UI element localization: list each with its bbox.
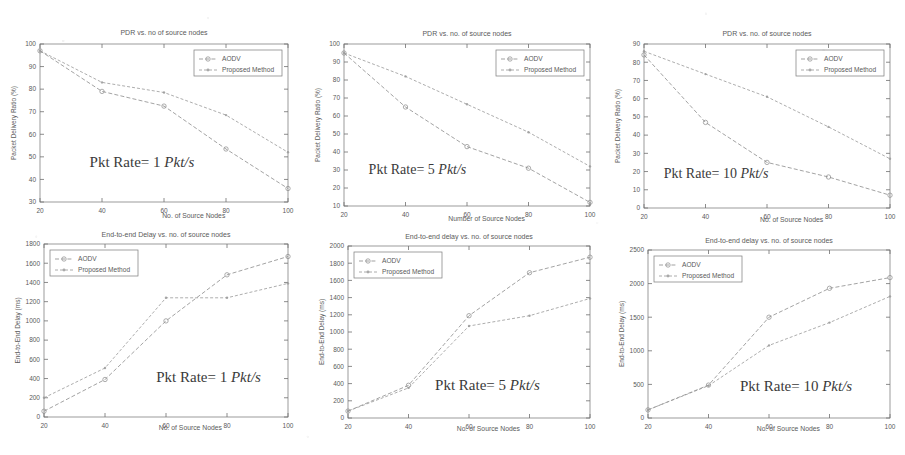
legend: AODVProposed Method [654, 256, 742, 282]
y-tick-label: 80 [29, 85, 37, 92]
legend: AODVProposed Method [50, 250, 138, 276]
data-point-proposed [163, 91, 165, 93]
data-point-proposed [43, 397, 45, 399]
y-tick-label: 600 [333, 363, 344, 370]
x-tick-label: 20 [40, 422, 48, 429]
legend-marker-proposed [367, 271, 370, 274]
y-axis-label: Packet Delivery Ratio (%) [614, 89, 622, 163]
y-tick-label: 40 [633, 131, 641, 138]
y-tick-label: 60 [333, 112, 341, 119]
y-tick-label: 90 [633, 40, 641, 47]
x-tick-label: 100 [885, 213, 896, 220]
x-tick-label: 40 [702, 213, 710, 220]
data-point-proposed [647, 409, 649, 411]
y-tick-label: 60 [29, 131, 37, 138]
chart-svg: 20406080100102030405060708090100PDR vs. … [302, 0, 604, 228]
data-point-proposed [707, 385, 709, 387]
legend-label: AODV [682, 261, 701, 268]
y-tick-label: 1000 [26, 317, 41, 324]
y-tick-label: 30 [333, 166, 341, 173]
legend-label: AODV [824, 55, 843, 62]
legend-label: Proposed Method [222, 66, 274, 74]
y-tick-label: 70 [29, 108, 37, 115]
data-point-proposed [404, 75, 406, 77]
data-point-aodv [703, 120, 707, 124]
legend: AODVProposed Method [496, 50, 584, 76]
y-tick-label: 20 [633, 168, 641, 175]
pkt-rate-annotation-unit: Pkt/s [821, 378, 852, 394]
x-tick-label: 40 [705, 423, 713, 430]
data-point-proposed [589, 165, 591, 167]
chart-title: End-to-end delay vs. no. of source nodes [705, 237, 833, 245]
y-tick-label: 10 [333, 202, 341, 209]
pkt-rate-annotation: Pkt Rate= 10 Pkt/s [664, 166, 769, 181]
x-axis-label: No. of Source Nodes [760, 216, 824, 223]
data-point-aodv [465, 144, 469, 148]
chart-delay-10pkts: 2040608010005001000150020002500End-to-en… [604, 228, 905, 455]
data-point-proposed [766, 96, 768, 98]
y-tick-label: 90 [333, 58, 341, 65]
pkt-rate-annotation: Pkt Rate= 1 Pkt/s [156, 369, 261, 385]
legend-label: AODV [382, 257, 401, 264]
data-point-proposed [643, 50, 645, 52]
y-tick-label: 50 [633, 113, 641, 120]
chart-svg: 2040608010002004006008001000120014001600… [302, 228, 604, 455]
data-point-proposed [287, 151, 289, 153]
x-tick-label: 20 [36, 207, 44, 214]
y-tick-label: 0 [340, 414, 344, 421]
data-point-proposed [704, 73, 706, 75]
x-tick-label: 100 [585, 211, 596, 218]
chart-svg: 2040608010030405060708090100PDR vs. no o… [0, 0, 302, 228]
y-tick-label: 400 [333, 380, 344, 387]
legend-label: AODV [222, 55, 241, 62]
pkt-rate-annotation-unit: Pkt/s [739, 166, 769, 181]
data-point-proposed [226, 297, 228, 299]
x-tick-label: 20 [344, 423, 352, 430]
chart-pdr-5pkts: 20406080100102030405060708090100PDR vs. … [302, 0, 604, 228]
legend: AODVProposed Method [194, 50, 282, 76]
y-tick-label: 50 [333, 130, 341, 137]
legend: AODVProposed Method [796, 50, 884, 76]
y-tick-label: 1200 [26, 298, 41, 305]
series-line-aodv [44, 257, 288, 412]
data-point-proposed [347, 410, 349, 412]
pkt-rate-annotation: Pkt Rate= 5 Pkt/s [435, 377, 540, 393]
x-tick-label: 100 [585, 423, 596, 430]
pkt-rate-annotation-plain: Pkt Rate= 1 [90, 154, 165, 170]
x-tick-label: 100 [283, 207, 294, 214]
pkt-rate-annotation-unit: Pkt/s [509, 377, 540, 393]
data-point-proposed [407, 387, 409, 389]
chart-title: PDR vs. no. of source nodes [422, 30, 512, 37]
y-tick-label: 2500 [630, 246, 645, 253]
pkt-rate-annotation-plain: Pkt Rate= 10 [740, 378, 822, 394]
data-point-proposed [768, 344, 770, 346]
data-point-proposed [589, 297, 591, 299]
legend-label: Proposed Method [78, 266, 130, 274]
legend-marker-proposed [207, 69, 210, 72]
x-tick-label: 80 [526, 423, 534, 430]
data-point-proposed [104, 367, 106, 369]
x-tick-label: 20 [640, 213, 648, 220]
pkt-rate-annotation-unit: Pkt/s [437, 162, 467, 177]
x-axis-label: No. of Source Nodes [162, 212, 226, 219]
y-tick-label: 1000 [330, 328, 345, 335]
data-point-proposed [889, 158, 891, 160]
x-tick-label: 20 [340, 211, 348, 218]
data-point-proposed [468, 325, 470, 327]
legend-marker-proposed [63, 269, 66, 272]
data-point-proposed [528, 315, 530, 317]
chart-delay-1pkts: 2040608010002004006008001000120014001600… [0, 228, 302, 455]
pkt-rate-annotation: Pkt Rate= 5 Pkt/s [369, 162, 467, 177]
y-tick-label: 1000 [630, 347, 645, 354]
x-tick-label: 40 [405, 423, 413, 430]
chart-title: PDR vs. no of source nodes [120, 29, 208, 36]
x-axis-label: No. of Source Nodes [757, 425, 821, 432]
y-tick-label: 2000 [330, 242, 345, 249]
y-tick-label: 50 [29, 153, 37, 160]
data-point-proposed [889, 295, 891, 297]
data-point-proposed [225, 114, 227, 116]
y-tick-label: 100 [25, 40, 36, 47]
y-tick-label: 40 [333, 148, 341, 155]
figure-panel-grid: 2040608010030405060708090100PDR vs. no o… [0, 0, 905, 455]
legend-label: AODV [524, 55, 543, 62]
